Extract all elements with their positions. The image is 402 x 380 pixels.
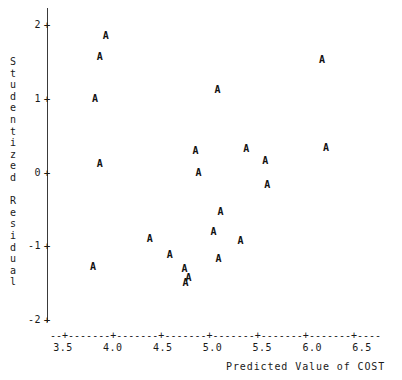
data-point-marker: A	[264, 180, 270, 190]
chart-title	[0, 0, 402, 6]
x-axis-line: --+-------+-------+-------+-------+-----…	[50, 331, 390, 340]
data-point-marker: A	[193, 146, 199, 156]
x-axis-title: Predicted Value of COST	[226, 362, 385, 372]
y-tick-label: -2	[28, 315, 41, 325]
y-tick-mark: +	[44, 241, 51, 252]
data-point-marker: A	[214, 85, 220, 95]
x-tick-label: 4.0	[103, 343, 123, 353]
data-point-marker: A	[323, 143, 329, 153]
y-tick-mark: +	[44, 20, 51, 31]
data-point-marker: A	[186, 273, 192, 283]
x-tick-label: 6.5	[352, 343, 372, 353]
data-point-marker: A	[210, 227, 216, 237]
y-tick-mark: +	[44, 167, 51, 178]
y-axis-line	[47, 8, 48, 322]
x-tick-label: 4.5	[153, 343, 173, 353]
data-point-marker: A	[237, 236, 243, 246]
data-point-marker: A	[103, 31, 109, 41]
data-point-marker: A	[215, 254, 221, 264]
x-tick-label: 5.0	[203, 343, 223, 353]
x-tick-label: 5.5	[253, 343, 273, 353]
data-point-marker: A	[183, 278, 189, 288]
data-point-marker: A	[90, 262, 96, 272]
data-point-marker: A	[147, 234, 153, 244]
data-point-marker: A	[92, 94, 98, 104]
data-point-marker: A	[182, 264, 188, 274]
data-point-marker: A	[319, 55, 325, 65]
x-tick-label: 6.0	[302, 343, 322, 353]
data-point-marker: A	[262, 156, 268, 166]
y-tick-label: 0	[34, 168, 41, 178]
data-point-marker: A	[196, 168, 202, 178]
data-point-marker: A	[167, 250, 173, 260]
y-axis-title: S t u d e n t i z e d R e s i d u a l	[6, 56, 20, 288]
data-point-layer: AAAAAAAAAAAAAAAAAAAAAA	[0, 0, 402, 380]
y-tick-label: 1	[34, 94, 41, 104]
y-tick-mark: +	[44, 93, 51, 104]
y-tick-label: 2	[34, 20, 41, 30]
data-point-marker: A	[97, 159, 103, 169]
data-point-marker: A	[243, 144, 249, 154]
y-tick-mark: +	[44, 315, 51, 326]
residual-scatter-plot: S t u d e n t i z e d R e s i d u a l +2…	[0, 0, 402, 380]
y-tick-label: -1	[28, 241, 41, 251]
data-point-marker: A	[217, 207, 223, 217]
data-point-marker: A	[97, 52, 103, 62]
x-tick-label: 3.5	[53, 343, 73, 353]
